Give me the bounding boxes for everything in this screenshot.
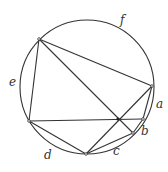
arc-label-e: e <box>9 76 16 88</box>
vertex-p3 <box>142 118 145 121</box>
arc-label-d: d <box>44 149 52 161</box>
chord-top <box>39 39 152 86</box>
vertex-p6 <box>28 120 31 123</box>
vertex-p4 <box>132 132 135 135</box>
intersection-point <box>116 117 119 120</box>
arc-label-f: f <box>120 14 124 26</box>
circle-diagram: a b c d e f <box>0 0 168 172</box>
vertex-p5 <box>85 153 88 156</box>
diagram-svg <box>0 0 168 172</box>
vertex-p2 <box>151 85 154 88</box>
arc-label-b: b <box>141 125 149 137</box>
chord-d <box>29 121 86 154</box>
arc-label-a: a <box>156 98 163 110</box>
vertex-p1 <box>38 38 41 41</box>
chord-c <box>86 133 133 154</box>
arc-label-c: c <box>113 145 120 157</box>
diagonal-p6-p3 <box>29 119 143 121</box>
